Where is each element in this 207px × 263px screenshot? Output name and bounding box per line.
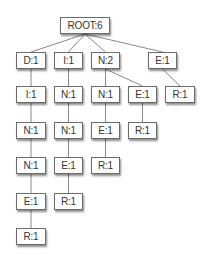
- node-label: R:1: [173, 89, 188, 100]
- node-label: N:1: [61, 89, 76, 100]
- node-label: D:1: [24, 55, 39, 66]
- tree-node: R:1: [91, 157, 120, 174]
- tree-node: E:1: [54, 157, 83, 174]
- tree-node: R:1: [165, 86, 195, 103]
- node-label: N:2: [98, 55, 113, 66]
- node-label: E:1: [98, 125, 112, 136]
- tree-node: D:1: [16, 52, 46, 69]
- node-label: E:1: [24, 196, 38, 207]
- tree-node: N:1: [16, 122, 46, 139]
- node-label: N:1: [24, 125, 39, 136]
- tree-edge: [106, 69, 143, 86]
- tree-node: R:1: [54, 193, 83, 210]
- tree-node: N:1: [54, 86, 83, 103]
- node-label: R:1: [61, 196, 76, 207]
- tree-node: E:1: [16, 193, 46, 210]
- tree-node: I:1: [16, 86, 46, 103]
- tree-root-node: ROOT:6: [60, 17, 110, 34]
- tree-node: N:2: [91, 52, 120, 69]
- node-label: N:1: [61, 125, 76, 136]
- tree-node: I:1: [54, 52, 83, 69]
- node-label: E:1: [135, 89, 149, 100]
- node-label: E:1: [155, 55, 169, 66]
- tree-node: R:1: [16, 228, 46, 245]
- tree-node: N:1: [16, 157, 46, 174]
- tree-node: R:1: [128, 122, 157, 139]
- tree-edge: [85, 34, 163, 52]
- node-label: R:1: [135, 125, 150, 136]
- node-label: R:1: [24, 231, 39, 242]
- tree-node: E:1: [128, 86, 157, 103]
- node-label: I:1: [26, 89, 37, 100]
- tree-edge: [163, 69, 181, 86]
- node-label: E:1: [61, 160, 75, 171]
- tree-node: N:1: [91, 86, 120, 103]
- node-label: N:1: [24, 160, 39, 171]
- tree-diagram: ROOT:6D:1I:1N:2E:1I:1N:1N:1E:1R:1N:1N:1E…: [0, 0, 207, 263]
- tree-node: N:1: [54, 122, 83, 139]
- node-label: N:1: [98, 89, 113, 100]
- node-label: R:1: [98, 160, 113, 171]
- node-label: I:1: [63, 55, 74, 66]
- tree-node: E:1: [91, 122, 120, 139]
- tree-node: E:1: [148, 52, 177, 69]
- node-label: ROOT:6: [68, 20, 103, 31]
